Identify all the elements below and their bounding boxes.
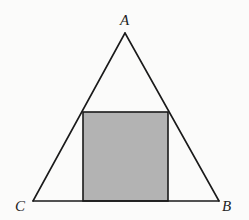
- inscribed-square: [83, 112, 168, 201]
- vertex-label-c: C: [15, 198, 26, 214]
- vertex-label-a: A: [119, 12, 130, 28]
- vertex-label-b: B: [222, 198, 231, 214]
- triangle-diagram: A B C: [0, 0, 249, 220]
